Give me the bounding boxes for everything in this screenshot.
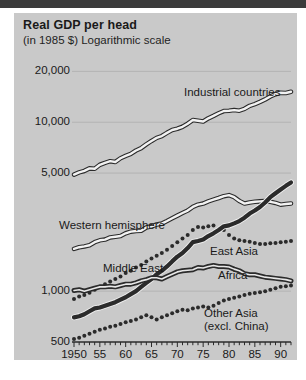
x-tick-60: 60 (119, 348, 132, 360)
x-tick-1950: 1950 (61, 348, 87, 360)
y-tick-20000: 20,000 (14, 64, 70, 76)
x-tick-85: 85 (248, 348, 261, 360)
series-label-africa: Africa (218, 269, 247, 281)
top-decoration-bar (0, 0, 306, 8)
x-tick-75: 75 (197, 348, 210, 360)
series-label-other-asia: Other Asia (204, 307, 258, 319)
series-label-industrial-countries: Industrial countries (184, 86, 281, 98)
series-label-east-asia: East Asia (210, 245, 258, 257)
chart-panel: Real GDP per head (in 1985 $) Logarithmi… (14, 13, 297, 360)
y-tick-500: 500 (14, 335, 70, 347)
series-label-western-hemisphere: Western hemisphere (59, 219, 165, 231)
x-tick-65: 65 (145, 348, 158, 360)
y-tick-10000: 10,000 (14, 115, 70, 127)
series-industrial-countries (74, 92, 291, 175)
x-tick-80: 80 (223, 348, 236, 360)
x-tick-55: 55 (93, 348, 106, 360)
x-tick-90: 90 (274, 348, 287, 360)
x-tick-70: 70 (171, 348, 184, 360)
series-other-asia-excl-china (72, 284, 293, 342)
series-label-middle-east: Middle East (103, 262, 163, 274)
y-tick-5000: 5,000 (14, 166, 70, 178)
series-label-other-asia-note: (excl. China) (204, 320, 269, 332)
y-tick-1000: 1,000 (14, 284, 70, 296)
